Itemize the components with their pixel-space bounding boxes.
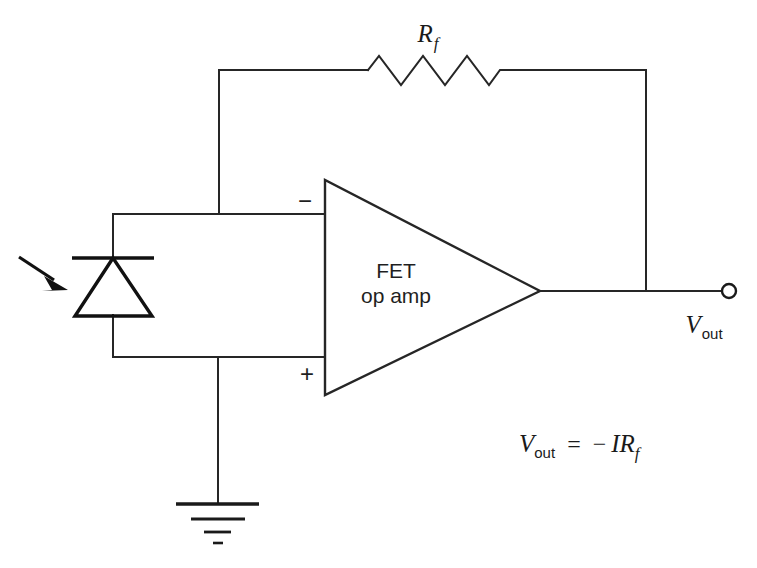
output-equation: Vout=−IRf (519, 430, 642, 463)
resistor-label: Rf (416, 20, 440, 53)
resistor-zigzag (368, 56, 508, 85)
opamp-triangle (325, 180, 540, 395)
photodiode-anode-triangle (75, 258, 152, 316)
output-label-subscript: out (702, 325, 724, 342)
fet-op-amp: FET op amp − + (298, 180, 540, 395)
opamp-label-line2: op amp (361, 284, 431, 307)
equation-resistor: R (619, 430, 635, 457)
opamp-label-line1: FET (376, 259, 416, 282)
noninverting-input-sign: + (300, 360, 314, 387)
ground-symbol (176, 357, 259, 543)
feedback-wire-left (219, 70, 368, 214)
equation-lhs-sub: out (534, 444, 556, 461)
equation-minus: − (593, 431, 607, 457)
light-arrow-shaft (19, 257, 54, 280)
equation-equals: = (567, 431, 581, 457)
output-label: Vout (685, 311, 723, 342)
equation-resistor-sub: f (635, 444, 642, 463)
inverting-input-sign: − (298, 187, 312, 214)
resistor-label-subscript: f (434, 34, 441, 53)
circuit-diagram: Rf FET op amp − + (0, 0, 757, 568)
output-terminal (722, 284, 736, 298)
equation-text: Vout=−IRf (519, 430, 642, 463)
light-arrow-head (42, 276, 68, 291)
resistor-label-main: R (416, 20, 432, 47)
feedback-resistor: Rf (368, 20, 508, 85)
schematic-canvas: Rf FET op amp − + (0, 0, 757, 568)
photodiode (19, 257, 154, 316)
feedback-wire-right (508, 70, 646, 291)
light-arrow (19, 257, 68, 291)
